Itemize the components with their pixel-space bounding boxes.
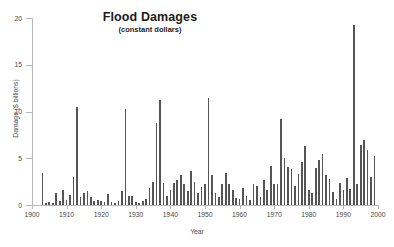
- bar: [332, 192, 334, 205]
- bar: [215, 193, 217, 205]
- bar: [311, 193, 313, 205]
- bar: [266, 190, 268, 205]
- bar: [76, 107, 78, 205]
- bar: [239, 199, 241, 205]
- bar: [73, 177, 75, 205]
- bar: [228, 184, 230, 206]
- bar: [100, 201, 102, 205]
- bar: [125, 109, 127, 205]
- bar: [374, 156, 376, 205]
- bar: [346, 178, 348, 205]
- bar: [325, 175, 327, 205]
- bar: [87, 191, 89, 205]
- bar: [190, 171, 192, 205]
- y-axis-tick-label: 20: [0, 15, 22, 22]
- bar: [353, 25, 355, 205]
- bar: [121, 191, 123, 205]
- bar: [131, 196, 133, 205]
- bar: [263, 180, 265, 205]
- bar: [349, 189, 351, 205]
- x-axis-tick: [274, 205, 275, 209]
- bar: [187, 191, 189, 205]
- bar: [256, 186, 258, 205]
- bar: [301, 162, 303, 205]
- bar: [180, 175, 182, 205]
- bar: [83, 193, 85, 205]
- bar: [197, 193, 199, 205]
- bar: [232, 190, 234, 205]
- bar: [329, 179, 331, 205]
- bar: [42, 173, 44, 205]
- bar: [118, 201, 120, 205]
- bar: [204, 184, 206, 206]
- bar: [211, 175, 213, 205]
- bar: [55, 193, 57, 205]
- bar: [246, 196, 248, 205]
- bar: [208, 98, 210, 205]
- y-axis-tick-label: 0: [0, 202, 22, 209]
- bar: [149, 188, 151, 205]
- bar: [173, 183, 175, 205]
- bar: [183, 184, 185, 205]
- bar: [107, 194, 109, 205]
- bar: [356, 184, 358, 206]
- bar: [294, 186, 296, 205]
- bar: [367, 150, 369, 205]
- x-axis-tick: [67, 205, 68, 209]
- y-axis-tick-label: 10: [0, 108, 22, 115]
- plot-area: [32, 18, 378, 205]
- bar: [104, 202, 106, 205]
- bar: [142, 201, 144, 205]
- x-axis-label: Year: [0, 228, 394, 235]
- y-axis-tick-label: 5: [0, 155, 22, 162]
- bar: [363, 140, 365, 205]
- x-axis-tick: [378, 205, 379, 209]
- bar: [135, 202, 137, 205]
- bar: [152, 182, 154, 205]
- bar: [235, 198, 237, 205]
- bar: [97, 200, 99, 205]
- bar: [304, 146, 306, 205]
- bar: [221, 184, 223, 206]
- bar: [45, 203, 47, 205]
- bar: [336, 199, 338, 205]
- bar: [273, 184, 275, 206]
- bar: [242, 188, 244, 205]
- x-axis-tick: [240, 205, 241, 209]
- x-axis-tick: [170, 205, 171, 209]
- bar: [90, 197, 92, 205]
- bar: [128, 196, 130, 205]
- bar: [59, 201, 61, 205]
- x-axis-tick: [343, 205, 344, 209]
- bar: [159, 100, 161, 205]
- x-axis-tick: [136, 205, 137, 209]
- y-axis-tick-label: 15: [0, 61, 22, 68]
- bar: [339, 183, 341, 205]
- bar: [308, 190, 310, 205]
- bar: [260, 197, 262, 205]
- bar: [93, 201, 95, 205]
- bar: [315, 168, 317, 205]
- bar: [225, 173, 227, 205]
- bar: [145, 199, 147, 205]
- bar: [360, 145, 362, 205]
- bar: [322, 154, 324, 205]
- bar: [62, 190, 64, 205]
- x-axis-tick: [309, 205, 310, 209]
- bar: [291, 169, 293, 205]
- bar: [80, 197, 82, 205]
- bar: [66, 200, 68, 205]
- bar: [253, 184, 255, 205]
- x-axis-tick: [32, 205, 33, 209]
- bar: [370, 177, 372, 205]
- bar: [284, 158, 286, 205]
- bar: [277, 184, 279, 205]
- bar: [343, 190, 345, 205]
- bar: [170, 190, 172, 205]
- x-axis-tick: [101, 205, 102, 209]
- bar: [111, 202, 113, 205]
- bar: [218, 197, 220, 205]
- bar: [298, 174, 300, 205]
- bar: [270, 166, 272, 205]
- bar: [52, 203, 54, 205]
